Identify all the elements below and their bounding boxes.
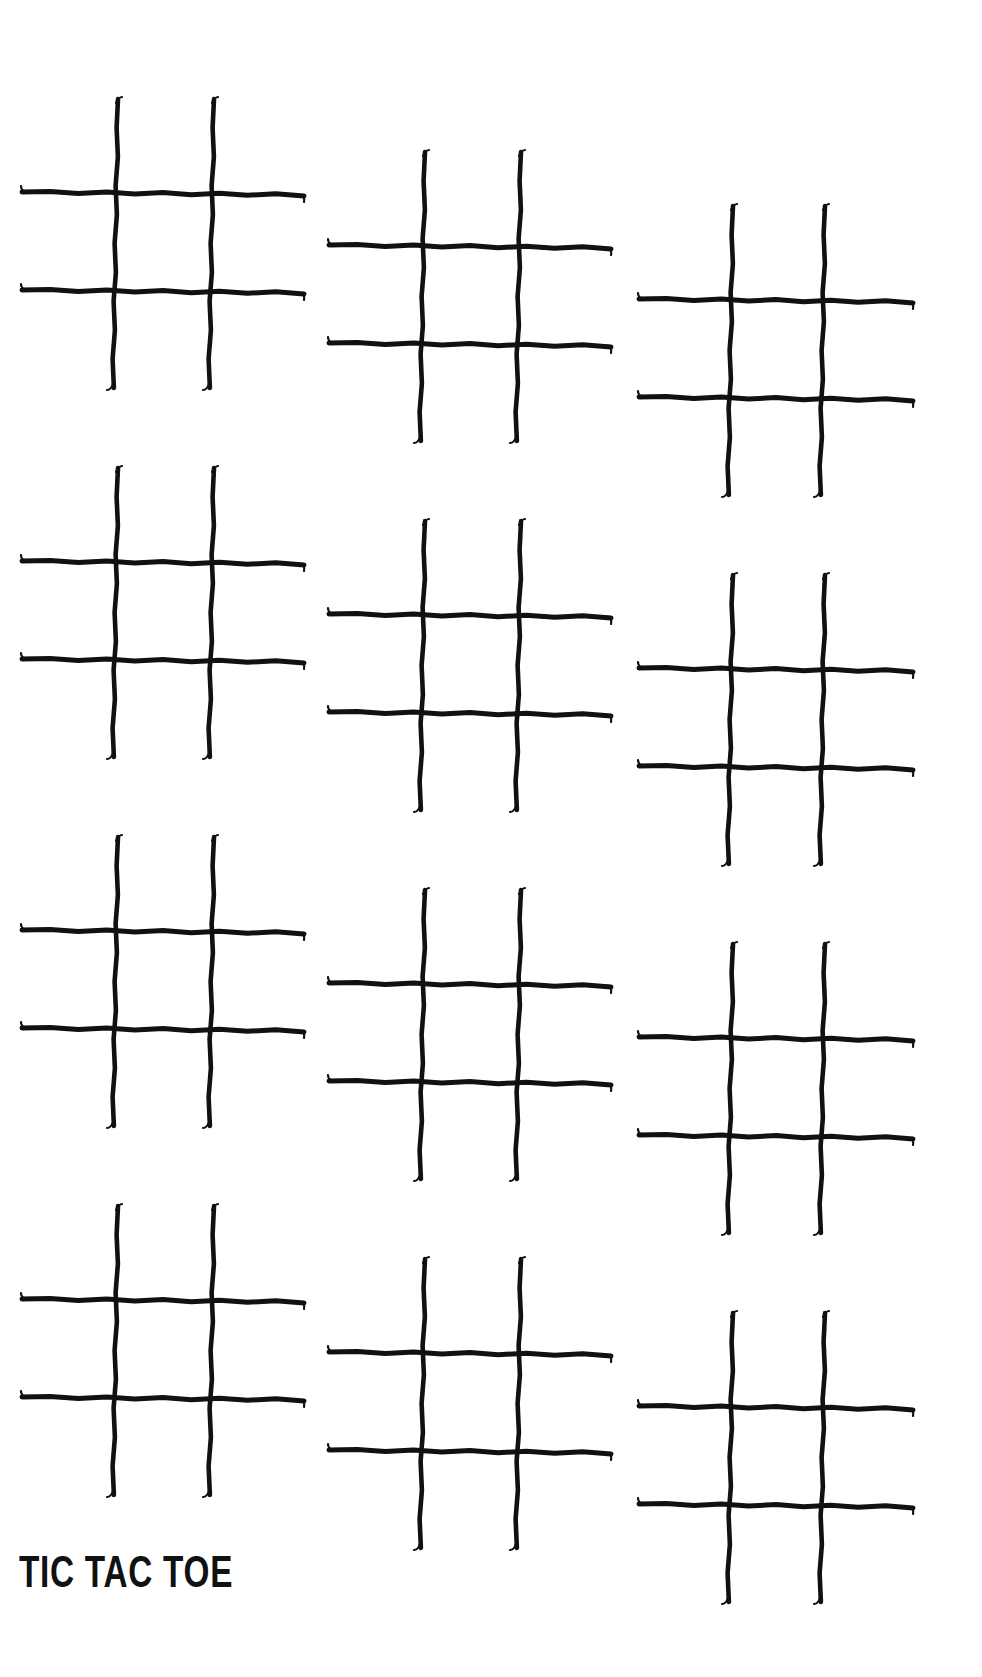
grid-line-vertical-right [820,1313,825,1602]
tic-tac-toe-board[interactable] [637,942,915,1235]
grid-line-horizontal-bottom [329,1080,611,1085]
grid-line-vertical-left [113,99,118,388]
grid-line-horizontal-top [22,1298,304,1303]
hash-grid-icon [20,1204,306,1497]
tic-tac-toe-board[interactable] [637,204,915,497]
tic-tac-toe-board[interactable] [637,573,915,866]
grid-line-vertical-left [728,1313,733,1602]
hash-grid-icon [20,466,306,759]
hash-grid-icon [20,835,306,1128]
grid-line-horizontal-top [639,298,913,303]
grid-line-vertical-left [113,468,118,757]
grid-line-horizontal-bottom [639,396,913,401]
grid-line-vertical-right [516,890,521,1179]
grid-line-vertical-right [209,468,214,757]
tic-tac-toe-board[interactable] [327,519,613,812]
grid-line-vertical-right [516,521,521,810]
hash-grid-icon [327,888,613,1181]
grid-line-horizontal-bottom [329,342,611,347]
tic-tac-toe-board[interactable] [327,1257,613,1550]
hash-grid-icon [637,573,915,866]
grid-line-horizontal-bottom [639,1134,913,1139]
grid-line-vertical-left [420,890,425,1179]
grid-line-horizontal-bottom [22,658,304,663]
grid-line-horizontal-top [329,613,611,618]
grid-line-horizontal-bottom [329,711,611,716]
grid-line-horizontal-bottom [329,1449,611,1454]
hash-grid-icon [327,519,613,812]
grid-line-vertical-left [113,837,118,1126]
hash-grid-icon [637,1311,915,1604]
grid-line-horizontal-top [329,244,611,249]
page-title: TIC TAC TOE [19,1549,233,1594]
grid-line-vertical-right [820,575,825,864]
grid-line-vertical-right [516,1259,521,1548]
grid-line-horizontal-top [22,191,304,196]
grid-line-horizontal-bottom [22,289,304,294]
grid-line-horizontal-bottom [22,1396,304,1401]
grid-line-vertical-left [420,1259,425,1548]
hash-grid-icon [20,97,306,390]
grid-line-vertical-right [209,1206,214,1495]
grid-line-vertical-right [516,152,521,441]
grid-line-horizontal-top [329,1351,611,1356]
grid-line-horizontal-bottom [639,765,913,770]
grid-line-vertical-left [728,206,733,495]
grid-line-vertical-left [728,575,733,864]
grid-line-horizontal-top [639,1036,913,1041]
grid-line-horizontal-top [22,560,304,565]
grid-line-vertical-left [420,521,425,810]
grid-line-horizontal-top [22,929,304,934]
hash-grid-icon [637,204,915,497]
tic-tac-toe-board[interactable] [20,466,306,759]
tic-tac-toe-board[interactable] [20,97,306,390]
grid-line-vertical-right [820,206,825,495]
grid-line-horizontal-bottom [22,1027,304,1032]
grid-line-vertical-left [728,944,733,1233]
tic-tac-toe-board[interactable] [637,1311,915,1604]
hash-grid-icon [327,1257,613,1550]
tic-tac-toe-board[interactable] [327,150,613,443]
hash-grid-icon [637,942,915,1235]
tic-tac-toe-board[interactable] [20,1204,306,1497]
grid-line-vertical-right [209,99,214,388]
grid-line-vertical-left [113,1206,118,1495]
grid-line-horizontal-top [329,982,611,987]
tic-tac-toe-board[interactable] [20,835,306,1128]
grid-line-vertical-right [820,944,825,1233]
grid-line-vertical-right [209,837,214,1126]
grid-line-horizontal-top [639,667,913,672]
tic-tac-toe-worksheet: TIC TAC TOE [0,0,982,1677]
grid-line-horizontal-bottom [639,1503,913,1508]
grid-line-horizontal-top [639,1405,913,1410]
hash-grid-icon [327,150,613,443]
grid-line-vertical-left [420,152,425,441]
tic-tac-toe-board[interactable] [327,888,613,1181]
